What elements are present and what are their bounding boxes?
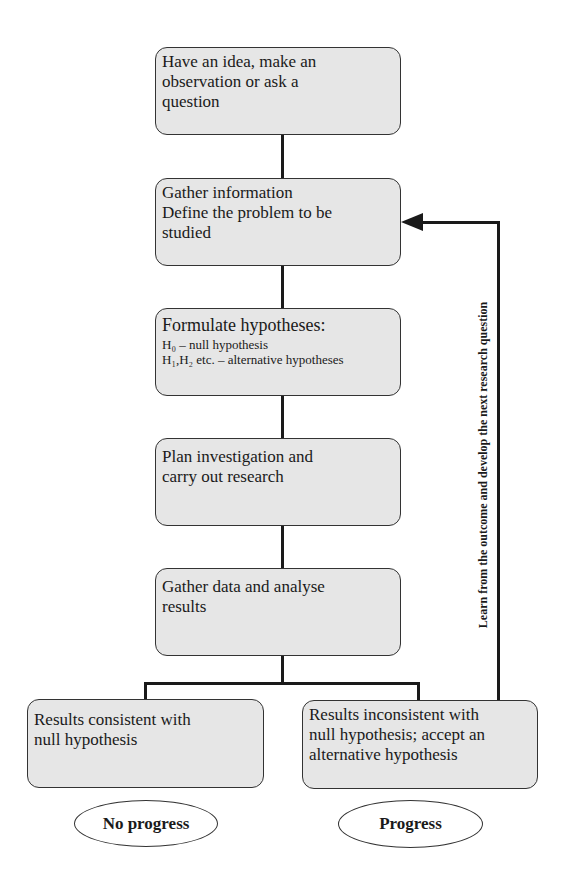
branch-horizontal: [144, 682, 420, 685]
step-line: Gather data and analyse: [162, 577, 394, 597]
step-line: carry out research: [162, 467, 394, 487]
step-line: question: [162, 92, 394, 112]
step-line: results: [162, 597, 394, 617]
connector-3-4: [281, 395, 284, 438]
step-line: observation or ask a: [162, 72, 394, 92]
feedback-horizontal: [415, 221, 500, 224]
connector-5-branch: [281, 656, 284, 684]
outcome-line: alternative hypothesis: [309, 745, 531, 765]
outcome-line: null hypothesis; accept an: [309, 725, 531, 745]
alternative-hypotheses: H₁,H₂ etc. – alternative hypotheses: [162, 352, 394, 367]
connector-4-5: [281, 526, 284, 568]
step-line: Define the problem to be: [162, 203, 394, 223]
result-no-progress: No progress: [74, 800, 218, 847]
feedback-label: Learn from the outcome and develop the n…: [476, 235, 491, 695]
feedback-vertical: [497, 221, 500, 701]
result-progress: Progress: [338, 800, 483, 848]
outcome-consistent: Results consistent with null hypothesis: [27, 699, 264, 788]
step-gather-data: Gather data and analyse results: [155, 568, 401, 656]
step-line: Have an idea, make an: [162, 52, 394, 72]
step-plan-investigation: Plan investigation and carry out researc…: [155, 438, 401, 526]
step-observe: Have an idea, make an observation or ask…: [155, 47, 401, 135]
step-gather-information: Gather information Define the problem to…: [155, 178, 401, 266]
outcome-line: null hypothesis: [34, 730, 257, 750]
outcome-line: Results inconsistent with: [309, 705, 531, 725]
feedback-arrowhead-icon: [401, 213, 423, 231]
step-line: studied: [162, 223, 394, 243]
outcome-inconsistent: Results inconsistent with null hypothesi…: [302, 700, 538, 789]
step-title: Formulate hypotheses:: [162, 313, 394, 337]
connector-1-2: [281, 134, 284, 178]
branch-left-drop: [144, 682, 147, 700]
null-hypothesis: H₀ – null hypothesis: [162, 337, 394, 352]
step-formulate-hypotheses: Formulate hypotheses: H₀ – null hypothes…: [155, 308, 401, 396]
step-line: Plan investigation and: [162, 447, 394, 467]
outcome-line: Results consistent with: [34, 710, 257, 730]
branch-right-drop: [417, 682, 420, 700]
step-line: Gather information: [162, 183, 394, 203]
connector-2-3: [281, 265, 284, 308]
